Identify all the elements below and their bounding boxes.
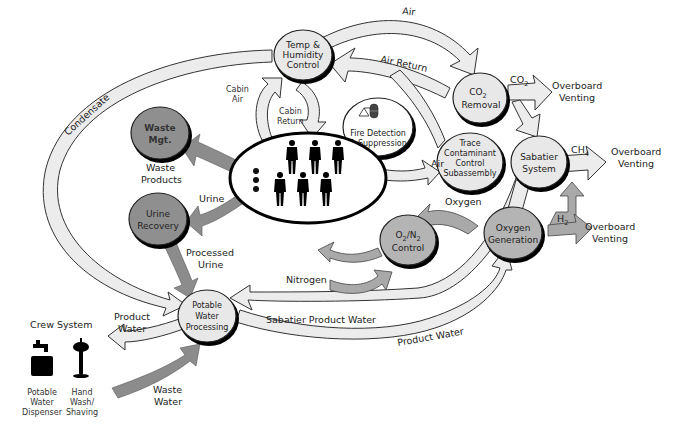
node-label: Removal — [461, 100, 500, 110]
node-label: Temp & — [285, 40, 320, 50]
node-label: Mgt. — [148, 135, 171, 145]
crew-system: Crew System Potable Water Dispenser Hand… — [22, 319, 98, 417]
flow-label-waste-products-b: Products — [141, 174, 182, 185]
flow-label-urine: Urine — [199, 193, 225, 204]
node-label: Generation — [488, 235, 538, 245]
flow-label-cabin-air: Cabin — [226, 85, 249, 94]
crew-item-label: Dispenser — [22, 408, 63, 417]
node-urine-recovery[interactable]: Urine Recovery — [129, 193, 190, 249]
crew-item-label: Potable — [27, 388, 57, 397]
node-label: Processing — [186, 323, 229, 332]
node-label: Contaminant — [444, 149, 496, 158]
node-label: System — [522, 164, 556, 174]
flow-label-overboard-3b: Venting — [592, 233, 628, 244]
node-label: Waste — [144, 123, 175, 133]
flow-label-waste-products: Waste — [146, 162, 175, 173]
flow-label-cabin-return-b: Return — [277, 117, 304, 126]
node-waste-mgt[interactable]: Waste Mgt. — [131, 107, 192, 163]
node-label: Water — [195, 312, 219, 321]
flow-label-sabatier-product-water: Sabatier Product Water — [266, 314, 376, 325]
node-label: Oxygen — [496, 223, 531, 233]
node-label: Control — [287, 60, 320, 70]
faucet-icon[interactable] — [31, 340, 53, 376]
flow-label-overboard-1b: Venting — [559, 92, 595, 103]
node-label: Fire Detection — [350, 129, 406, 138]
node-label: Control — [392, 243, 425, 253]
h2-venting-flow — [548, 182, 592, 244]
flow-label-air-trace: Air — [431, 158, 444, 169]
crew-pet-icons — [253, 168, 259, 192]
node-label: Potable — [192, 301, 222, 310]
node-label: Sabatier — [520, 152, 558, 162]
flow-label-product-water-left: Product — [114, 311, 150, 322]
node-label: Urine — [146, 209, 170, 219]
crew-item-label: Hand — [71, 388, 92, 397]
flow-label-overboard-3: Overboard — [585, 221, 635, 232]
o2n2-out-flow — [318, 242, 382, 262]
flow-label-cabin-return: Cabin — [279, 107, 302, 116]
flow-label-waste-water-b: Water — [154, 396, 182, 407]
flow-label-waste-water: Waste — [153, 384, 182, 395]
flow-label-product-water-left-b: Water — [118, 323, 146, 334]
node-label: Control — [456, 159, 485, 168]
flow-label-cabin-air-b: Air — [232, 95, 244, 104]
node-label: Recovery — [137, 221, 179, 231]
node-label: Subassembly — [443, 169, 496, 178]
crew-system-title: Crew System — [30, 319, 92, 330]
crew-item-label: Wash/ — [70, 398, 95, 407]
flow-label-overboard-1: Overboard — [552, 80, 602, 91]
node-oxygen-generation[interactable]: Oxygen Generation — [484, 207, 545, 263]
flow-label-oxygen: Oxygen — [445, 196, 482, 207]
flow-label-overboard-2: Overboard — [611, 146, 661, 157]
eclss-diagram: Temp & Humidity Control CO2 Removal Fire… — [0, 0, 686, 440]
node-label: Humidity — [283, 50, 324, 60]
node-co2-removal[interactable]: CO2 Removal — [453, 73, 510, 127]
flow-label-overboard-2b: Venting — [618, 158, 654, 169]
flow-label-processed-urine: Processed — [186, 247, 234, 258]
flow-label-condensate: Condensate — [62, 91, 112, 137]
flow-label-processed-urine-b: Urine — [198, 259, 224, 270]
crew-cabin[interactable] — [230, 133, 386, 223]
node-trace-contaminant[interactable]: Trace Contaminant Control Subassembly — [437, 133, 506, 195]
hand-wash-icon[interactable] — [73, 338, 89, 378]
crew-item-label: Water — [30, 398, 54, 407]
flow-label-nitrogen: Nitrogen — [286, 274, 327, 285]
flow-label-air: Air — [402, 5, 416, 17]
node-label: Trace — [458, 139, 480, 148]
crew-item-label: Shaving — [66, 408, 98, 417]
